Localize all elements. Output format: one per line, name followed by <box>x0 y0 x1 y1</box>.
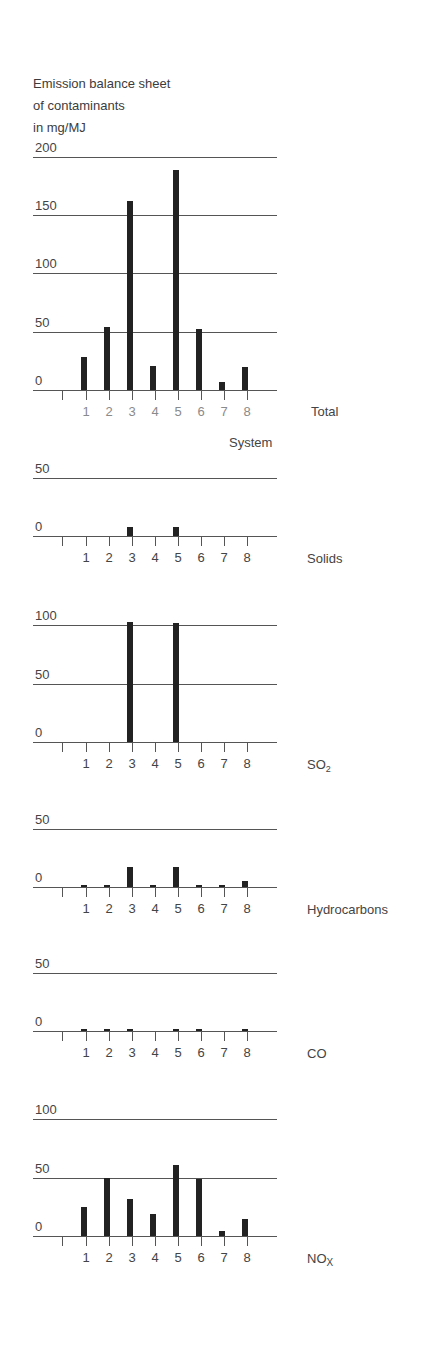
x-tick-label: 7 <box>217 902 231 916</box>
chart-total: Total 05010015020012345678 <box>0 0 436 1360</box>
x-tick <box>201 1237 202 1246</box>
x-tick-label: 1 <box>79 1046 93 1060</box>
series-label-total: Total <box>311 404 338 419</box>
x-tick <box>155 888 156 897</box>
x-tick-label: 3 <box>125 902 139 916</box>
bar-system-5 <box>173 867 179 887</box>
y-tick-label: 150 <box>35 199 57 213</box>
x-tick-label: 6 <box>194 757 208 771</box>
bar-system-6 <box>196 885 202 887</box>
y-tick-label: 50 <box>35 462 49 476</box>
x-tick-label: 4 <box>148 757 162 771</box>
gridline <box>33 390 277 391</box>
x-tick-label: 1 <box>79 757 93 771</box>
y-tick-label: 50 <box>35 957 49 971</box>
x-tick <box>132 537 133 546</box>
x-tick <box>247 743 248 752</box>
x-tick <box>62 391 63 400</box>
gridline <box>33 157 277 158</box>
x-tick-label: 7 <box>217 1046 231 1060</box>
x-tick-label: 6 <box>194 902 208 916</box>
x-tick-label: 8 <box>240 902 254 916</box>
chart-nox: NOX 05010012345678 <box>0 0 436 1360</box>
title-line-3: in mg/MJ <box>33 117 170 139</box>
series-label-text: NO <box>307 1251 327 1266</box>
y-tick-label: 50 <box>35 316 49 330</box>
y-tick-label: 50 <box>35 813 49 827</box>
x-tick <box>86 537 87 546</box>
x-tick-label: 3 <box>125 405 139 419</box>
bar-system-5 <box>173 1029 179 1031</box>
bar-system-1 <box>81 1207 87 1236</box>
x-tick-label: 2 <box>102 1046 116 1060</box>
x-tick <box>201 888 202 897</box>
series-label-text: Total <box>311 404 338 419</box>
x-tick <box>155 537 156 546</box>
x-tick-label: 5 <box>171 757 185 771</box>
x-tick <box>132 1032 133 1041</box>
chart-hydrocarbons: Hydrocarbons 05012345678 <box>0 0 436 1360</box>
title-line-1: Emission balance sheet <box>33 73 170 95</box>
gridline <box>33 1119 277 1120</box>
y-tick-label: 0 <box>35 374 42 388</box>
y-tick-label: 100 <box>35 1103 57 1117</box>
x-tick <box>224 537 225 546</box>
bar-system-6 <box>196 329 202 390</box>
x-tick-label: 4 <box>148 1251 162 1265</box>
x-tick-label: 6 <box>194 1046 208 1060</box>
gridline <box>33 536 277 537</box>
y-tick-label: 0 <box>35 1220 42 1234</box>
x-tick-label: 4 <box>148 405 162 419</box>
x-tick <box>224 1032 225 1041</box>
series-label-nox: NOX <box>307 1251 333 1266</box>
chart-so2: SO2 05010012345678 <box>0 0 436 1360</box>
x-tick <box>132 888 133 897</box>
bar-system-7 <box>219 1231 225 1236</box>
bar-system-6 <box>196 1179 202 1236</box>
x-tick <box>224 888 225 897</box>
x-tick <box>109 537 110 546</box>
x-tick-label: 3 <box>125 551 139 565</box>
x-tick <box>132 391 133 400</box>
x-tick <box>247 888 248 897</box>
bar-system-8 <box>242 1219 248 1236</box>
x-tick <box>247 1237 248 1246</box>
bar-system-5 <box>173 527 179 536</box>
bar-system-5 <box>173 623 179 742</box>
x-tick-label: 6 <box>194 551 208 565</box>
x-tick-label: 2 <box>102 757 116 771</box>
y-tick-label: 0 <box>35 520 42 534</box>
bar-system-1 <box>81 357 87 390</box>
bar-system-3 <box>127 622 133 742</box>
x-tick <box>247 391 248 400</box>
bar-system-3 <box>127 1029 133 1031</box>
x-tick-label: 8 <box>240 405 254 419</box>
bar-system-5 <box>173 170 179 390</box>
x-tick-label: 7 <box>217 405 231 419</box>
x-tick <box>201 743 202 752</box>
series-label-text: Solids <box>307 551 342 566</box>
bar-system-2 <box>104 1029 110 1031</box>
series-label-solids: Solids <box>307 551 342 566</box>
bar-system-2 <box>104 327 110 390</box>
title-line-2: of contaminants <box>33 95 170 117</box>
bar-system-3 <box>127 201 133 390</box>
y-tick-label: 200 <box>35 141 57 155</box>
x-tick-label: 5 <box>171 1251 185 1265</box>
x-tick-label: 8 <box>240 551 254 565</box>
x-tick <box>62 1237 63 1246</box>
gridline <box>33 887 277 888</box>
bar-system-6 <box>196 1029 202 1031</box>
x-tick <box>201 1032 202 1041</box>
x-tick <box>178 537 179 546</box>
x-tick <box>178 1237 179 1246</box>
x-tick <box>62 743 63 752</box>
bar-system-2 <box>104 885 110 887</box>
y-tick-label: 0 <box>35 1015 42 1029</box>
x-tick <box>62 537 63 546</box>
x-tick-label: 2 <box>102 902 116 916</box>
bar-system-7 <box>219 382 225 390</box>
y-tick-label: 0 <box>35 726 42 740</box>
gridline <box>33 625 277 626</box>
x-tick <box>109 1237 110 1246</box>
